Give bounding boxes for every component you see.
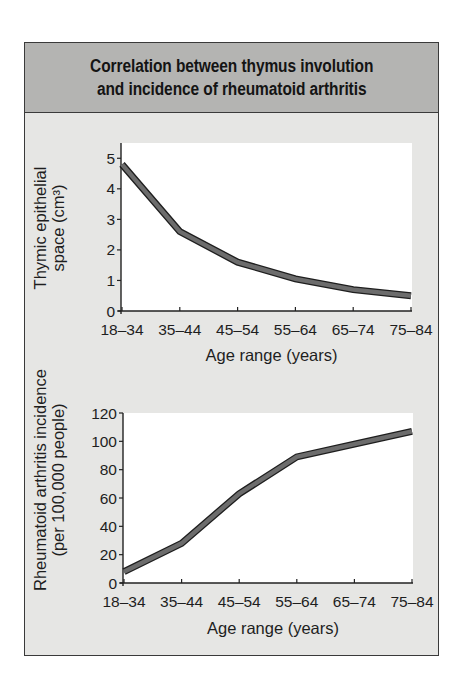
x-tick-label: 45–54 (216, 321, 259, 338)
y-tick-label: 120 (91, 405, 117, 422)
x-tick-label: 55–64 (275, 593, 318, 610)
y-tick-label: 0 (108, 575, 117, 592)
y-tick-label: 2 (106, 241, 115, 258)
x-tick-label: 75–84 (390, 593, 433, 610)
y-tick-label: 1 (106, 272, 115, 289)
y-tick-label: 40 (100, 518, 118, 535)
plot-area (121, 143, 412, 311)
x-tick-label: 75–84 (389, 321, 432, 338)
y-tick-label: 20 (100, 546, 118, 563)
y-tick-label: 5 (106, 150, 115, 167)
y-axis-title-line: (per 100,000 people) (49, 403, 67, 556)
y-tick-label: 100 (91, 433, 117, 450)
x-axis-title: Age range (years) (205, 346, 337, 364)
x-tick-label: 18–34 (102, 593, 145, 610)
x-tick-label: 18–34 (100, 321, 143, 338)
x-tick-label: 55–64 (274, 321, 317, 338)
x-tick-label: 35–44 (158, 321, 201, 338)
x-tick-label: 45–54 (218, 593, 261, 610)
charts-canvas: 01234518–3435–4445–5455–6465–7475–84Age … (0, 0, 463, 694)
x-tick-label: 65–74 (332, 321, 375, 338)
y-tick-label: 0 (106, 303, 115, 320)
y-axis-title-line: space (cm³) (49, 184, 67, 271)
y-tick-label: 4 (106, 180, 115, 197)
x-axis-title: Age range (years) (207, 619, 339, 637)
ra-incidence-chart: 02040608010012018–3435–4445–5455–6465–74… (31, 369, 434, 637)
y-tick-label: 60 (100, 490, 118, 507)
x-tick-label: 35–44 (160, 593, 203, 610)
thymus-chart: 01234518–3435–4445–5455–6465–7475–84Age … (31, 143, 433, 364)
y-axis-title-line: Thymic epithelial (31, 167, 49, 290)
y-axis-title-line: Rheumatoid arthritis incidence (31, 369, 49, 591)
y-tick-label: 3 (106, 211, 115, 228)
x-tick-label: 65–74 (333, 593, 376, 610)
y-tick-label: 80 (100, 461, 118, 478)
